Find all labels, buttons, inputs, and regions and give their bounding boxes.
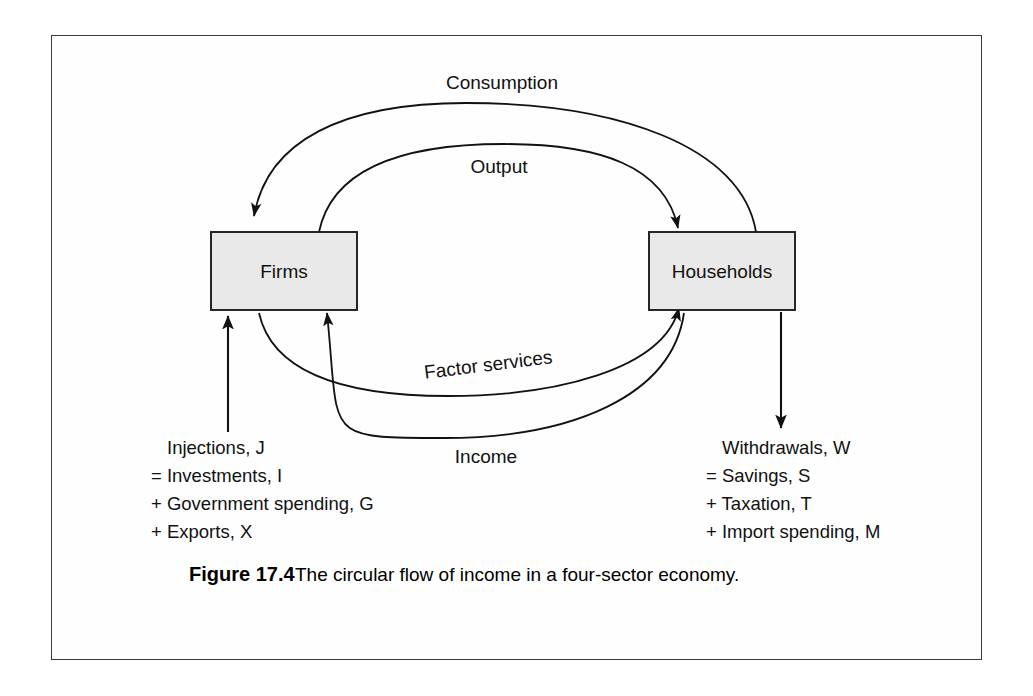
node-label-households: Households — [672, 261, 772, 282]
node-label-firms: Firms — [260, 261, 307, 282]
injections-text-block: Injections, J = Investments, I + Governm… — [151, 437, 374, 542]
flow-label-factor-services: Factor services — [423, 346, 553, 383]
flow-label-income: Income — [455, 446, 517, 467]
flow-label-output: Output — [470, 156, 528, 177]
injections-line-3: + Exports, X — [151, 521, 252, 542]
flow-label-consumption: Consumption — [446, 72, 558, 93]
withdrawals-line-3: + Import spending, M — [706, 521, 880, 542]
figure-caption: Figure 17.4 The circular flow of income … — [189, 563, 739, 585]
figure-page: Firms Households Consumption Output Fact… — [0, 0, 1033, 696]
withdrawals-line-1: = Savings, S — [706, 465, 810, 486]
circular-flow-diagram: Firms Households Consumption Output Fact… — [52, 36, 981, 659]
flow-curve-income — [327, 313, 684, 438]
flow-curve-factor-services — [259, 308, 679, 396]
node-box-households[interactable]: Households — [649, 232, 795, 310]
injections-line-1: = Investments, I — [151, 465, 282, 486]
withdrawals-text-block: Withdrawals, W = Savings, S + Taxation, … — [706, 437, 880, 542]
injections-title: Injections, J — [167, 437, 265, 458]
withdrawals-title: Withdrawals, W — [722, 437, 851, 458]
injections-line-2: + Government spending, G — [151, 493, 374, 514]
withdrawals-line-2: + Taxation, T — [706, 493, 812, 514]
caption-label: Figure 17.4 — [189, 563, 295, 585]
figure-frame: Firms Households Consumption Output Fact… — [51, 35, 982, 660]
caption-text: The circular flow of income in a four-se… — [295, 564, 739, 585]
node-box-firms[interactable]: Firms — [211, 232, 357, 310]
